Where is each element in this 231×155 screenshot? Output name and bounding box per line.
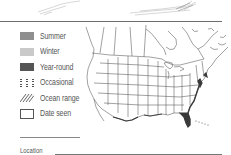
bird-sketch-illustration: [0, 0, 231, 21]
summer-swatch-icon: [20, 32, 34, 40]
year-round-swatch-icon: [20, 63, 34, 71]
location-entry-line[interactable]: [55, 154, 222, 155]
legend-label: Summer: [40, 32, 66, 41]
winter-swatch-icon: [20, 48, 34, 56]
legend-item-ocean-range: Ocean range: [20, 91, 80, 105]
date-seen-checkbox[interactable]: [20, 109, 34, 119]
location-label: Location: [20, 147, 42, 154]
legend-item-winter: Winter: [20, 45, 80, 59]
legend-item-summer: Summer: [20, 29, 80, 43]
header-divider: [0, 21, 222, 22]
legend-item-year-round: Year-round: [20, 60, 80, 74]
occasional-dots-icon: [20, 79, 34, 87]
ocean-hatch-icon: [20, 94, 34, 102]
range-legend: Summer Winter Year-round Occasional Ocea…: [20, 29, 80, 122]
legend-label: Ocean range: [40, 94, 79, 103]
legend-label: Winter: [40, 47, 60, 56]
legend-label: Occasional: [40, 78, 74, 87]
legend-item-date-seen: Date seen: [20, 107, 80, 121]
range-map: [80, 25, 231, 130]
legend-label: Year-round: [40, 63, 73, 72]
legend-label: Date seen: [40, 109, 71, 118]
date-seen-entry-line[interactable]: [20, 137, 80, 138]
legend-item-occasional: Occasional: [20, 76, 80, 90]
